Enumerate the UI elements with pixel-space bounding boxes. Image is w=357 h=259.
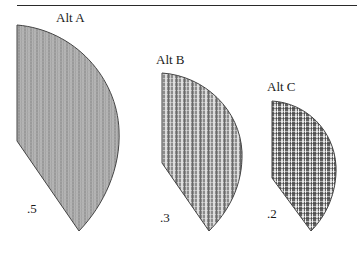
label-alt-c: Alt C (267, 80, 296, 93)
probability-alt-a: .5 (27, 202, 37, 215)
label-alt-b: Alt B (156, 53, 185, 66)
probability-alt-c: .2 (267, 207, 277, 220)
label-alt-a: Alt A (56, 11, 85, 24)
wedge-alt-b (162, 73, 242, 231)
probability-alt-b: .3 (160, 211, 170, 224)
wedge-alt-c (272, 101, 336, 231)
wedge-diagram (0, 0, 357, 259)
